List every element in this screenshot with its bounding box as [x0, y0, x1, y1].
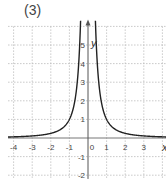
axes: [8, 19, 166, 179]
y-tick-label: -2: [78, 171, 86, 180]
y-tick-label: 2: [81, 97, 86, 106]
y-tick-label: -1: [78, 153, 86, 162]
x-tick-label: -4: [10, 143, 18, 152]
y-tick-label: 3: [81, 78, 86, 87]
x-tick-label: -1: [66, 143, 74, 152]
x-tick-label: 2: [123, 143, 128, 152]
function-plot: -4-3-2-10123-2-112345 x y: [0, 0, 166, 190]
x-tick-label: 1: [104, 143, 109, 152]
x-axis-label: x: [161, 141, 166, 153]
x-tick-label: 0: [90, 143, 95, 152]
y-tick-label: 1: [81, 115, 86, 124]
y-axis-arrow-icon: [86, 19, 91, 25]
x-tick-label: 3: [142, 143, 147, 152]
y-tick-label: 4: [81, 60, 86, 69]
x-tick-label: -2: [47, 143, 55, 152]
y-tick-label: 5: [81, 41, 86, 50]
x-tick-label: -3: [29, 143, 37, 152]
grid: [8, 26, 166, 179]
